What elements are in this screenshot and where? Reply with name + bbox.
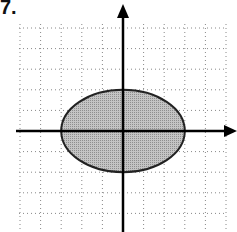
coordinate-graph: [0, 0, 237, 232]
y-axis-arrow-icon: [117, 4, 129, 18]
x-axis-arrow-icon: [224, 125, 237, 137]
